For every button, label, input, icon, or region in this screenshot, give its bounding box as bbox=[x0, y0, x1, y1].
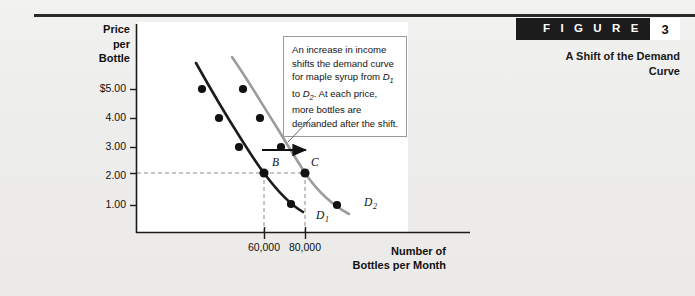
figure-title: A Shift of the Demand Curve bbox=[516, 49, 680, 78]
y-tick-label-3: 3.00 bbox=[68, 140, 126, 152]
figure-title-line-1: A Shift of the Demand bbox=[516, 49, 680, 64]
y-axis-title: Price per Bottle bbox=[60, 22, 130, 66]
y-axis-title-line-1: Price bbox=[60, 22, 130, 37]
y-axis-title-line-3: Bottle bbox=[60, 51, 130, 66]
annotation-textbox: An increase in income shifts the demand … bbox=[283, 36, 407, 137]
figure-title-line-2: Curve bbox=[516, 64, 680, 79]
y-tick-label-5: $5.00 bbox=[68, 82, 126, 94]
annotation-d1-symbol: D bbox=[383, 71, 390, 82]
figure-banner-word: F I G U R E bbox=[543, 23, 650, 35]
figure-banner: F I G U R E 3 bbox=[516, 18, 680, 40]
figure-header: F I G U R E 3 A Shift of the Demand Curv… bbox=[516, 18, 680, 78]
figure-number: 3 bbox=[650, 18, 680, 40]
top-divider-rule bbox=[34, 14, 695, 17]
y-axis-title-line-2: per bbox=[60, 37, 130, 52]
annotation-text-part-2: to bbox=[292, 88, 303, 99]
figure-page: F I G U R E 3 A Shift of the Demand Curv… bbox=[0, 0, 695, 296]
x-tick-label-80000: 80,000 bbox=[275, 241, 335, 253]
y-tick-label-1: 1.00 bbox=[68, 198, 126, 210]
annotation-text-part-1: An increase in income shifts the demand … bbox=[292, 44, 394, 82]
annotation-d1-subscript: 1 bbox=[390, 76, 394, 85]
y-tick-label-4: 4.00 bbox=[68, 111, 126, 123]
annotation-d2-symbol: D bbox=[303, 88, 310, 99]
x-axis-title-line-2: Bottles per Month bbox=[296, 258, 446, 272]
y-tick-label-2: 2.00 bbox=[68, 169, 126, 181]
